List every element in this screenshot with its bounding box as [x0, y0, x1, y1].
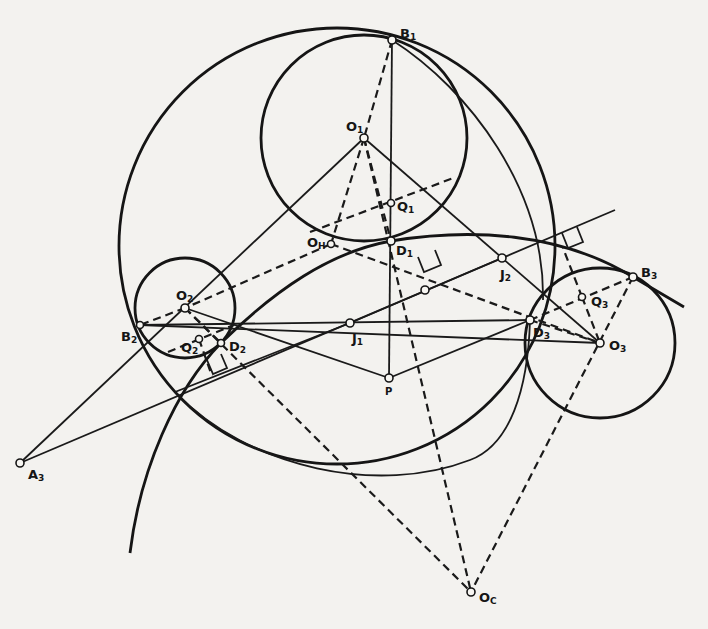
arc-right — [392, 40, 543, 300]
point-b2 — [137, 322, 144, 329]
diagram-canvas: B1 O1 Q1 D1 OH O2 B2 Q2 D2 J1 J2 P D3 O3… — [0, 0, 708, 629]
label-b3: B3 — [641, 266, 657, 281]
label-d3: D3 — [533, 326, 550, 341]
point-j1 — [346, 319, 354, 327]
dash-o1-oc — [364, 138, 471, 592]
dash-oh-o2 — [185, 244, 331, 308]
point-oc — [467, 588, 475, 596]
point-a3 — [16, 459, 24, 467]
label-q1: Q1 — [397, 200, 414, 215]
label-o2: O2 — [176, 289, 193, 304]
point-d2 — [218, 340, 225, 347]
label-b2: B2 — [121, 330, 137, 345]
dash-q1-ext — [310, 177, 456, 232]
point-b1 — [388, 36, 396, 44]
dash-o2-perp — [199, 339, 212, 376]
label-j1: J1 — [352, 332, 363, 347]
dash-b1-o1 — [364, 40, 392, 138]
point-o1 — [360, 134, 368, 142]
label-j2: J2 — [500, 268, 511, 283]
dash-q3-perp — [563, 248, 582, 297]
point-o3 — [596, 339, 604, 347]
point-j2 — [498, 254, 506, 262]
construction-figure — [0, 0, 708, 629]
point-oh — [328, 241, 335, 248]
point-q1 — [388, 200, 395, 207]
label-a3: A3 — [28, 468, 44, 483]
line-p-d3 — [389, 320, 530, 378]
label-d1: D1 — [396, 244, 413, 259]
point-p — [385, 374, 393, 382]
line-b1-p — [389, 40, 392, 378]
right-angle-b3 — [562, 227, 583, 248]
point-b3 — [629, 273, 637, 281]
point-d1 — [387, 237, 395, 245]
label-q2: Q2 — [181, 341, 198, 356]
label-p: P — [385, 387, 392, 397]
arc-bottom-left — [130, 235, 684, 553]
dash-oh-d3 — [331, 244, 600, 343]
label-oh: OH — [307, 236, 326, 251]
dash-o2-oc — [185, 308, 471, 592]
label-q3: Q3 — [591, 295, 608, 310]
dash-o2-b2 — [140, 308, 185, 325]
point-x — [421, 286, 429, 294]
point-q3 — [579, 294, 586, 301]
label-o3: O3 — [609, 339, 626, 354]
line-b2-o3 — [140, 325, 600, 343]
point-d3 — [526, 316, 534, 324]
point-o2 — [181, 304, 189, 312]
label-d2: D2 — [229, 340, 246, 355]
line-d2-j1 — [175, 323, 350, 392]
label-b1: B1 — [400, 27, 416, 42]
label-o1: O1 — [346, 120, 363, 135]
label-oc: OC — [479, 591, 497, 606]
right-angle-mid — [418, 250, 441, 272]
